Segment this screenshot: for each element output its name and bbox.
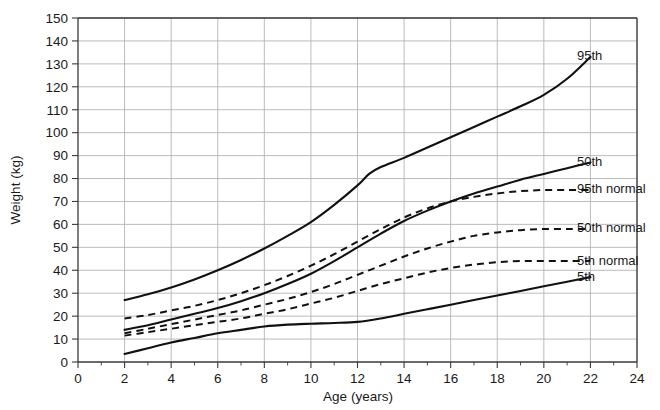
series-labels: 95th50th95th normal50th normal5th normal… [577, 48, 646, 283]
y-tick-label: 90 [53, 148, 68, 163]
x-tick-label: 24 [629, 371, 645, 386]
x-tick-label: 8 [261, 371, 269, 386]
x-tick-label: 12 [350, 371, 365, 386]
y-tick-label: 140 [45, 34, 68, 49]
y-tick-labels: 0102030405060708090100110120130140150 [45, 11, 68, 370]
grid-lines [78, 18, 637, 362]
series-label-5th-normal: 5th normal [577, 253, 639, 268]
y-tick-label: 60 [53, 217, 68, 232]
series-label-95th-normal: 95th normal [577, 181, 646, 196]
series-label-50th: 50th [577, 154, 602, 169]
x-tick-label: 0 [74, 371, 82, 386]
series-label-95th: 95th [577, 48, 602, 63]
y-tick-label: 40 [53, 263, 68, 278]
y-tick-label: 80 [53, 171, 68, 186]
y-tick-label: 110 [46, 103, 68, 118]
y-axis-title: Weight (kg) [8, 156, 23, 225]
x-tick-label: 16 [443, 371, 458, 386]
y-tick-label: 0 [60, 355, 68, 370]
x-tick-label: 18 [490, 371, 505, 386]
growth-chart: 0102030405060708090100110120130140150 02… [0, 0, 660, 410]
y-tick-label: 150 [45, 11, 68, 26]
y-tick-label: 30 [53, 286, 68, 301]
x-axis-title: Age (years) [323, 389, 393, 404]
tick-marks [72, 18, 637, 368]
y-tick-label: 100 [45, 125, 68, 140]
y-tick-label: 130 [45, 57, 68, 72]
y-tick-label: 120 [45, 80, 68, 95]
chart-canvas: 0102030405060708090100110120130140150 02… [0, 0, 660, 410]
x-tick-label: 6 [214, 371, 222, 386]
y-tick-label: 70 [53, 194, 68, 209]
x-tick-label: 14 [397, 371, 413, 386]
y-tick-label: 20 [53, 309, 68, 324]
x-tick-labels: 024681012141618202224 [74, 371, 645, 386]
x-tick-label: 22 [583, 371, 598, 386]
x-tick-label: 10 [303, 371, 318, 386]
x-tick-label: 4 [167, 371, 175, 386]
y-tick-label: 50 [53, 240, 68, 255]
y-tick-label: 10 [53, 332, 68, 347]
x-tick-label: 20 [536, 371, 551, 386]
x-tick-label: 2 [121, 371, 129, 386]
series-label-50th-normal: 50th normal [577, 220, 646, 235]
series-label-5th: 5th [577, 269, 595, 284]
